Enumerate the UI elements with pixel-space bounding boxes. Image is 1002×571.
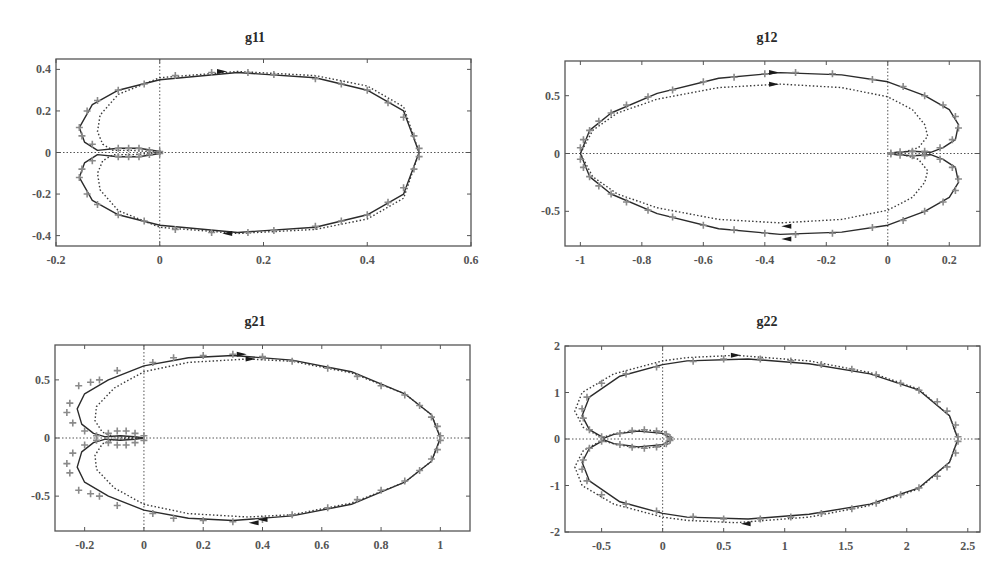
plus-marker — [132, 430, 139, 437]
plus-marker — [616, 441, 623, 448]
plus-marker — [586, 445, 593, 452]
plus-marker — [364, 211, 371, 218]
direction-arrow-icon — [781, 224, 791, 229]
x-tick-label: 0.6 — [314, 538, 329, 552]
plus-marker — [580, 164, 587, 171]
plus-marker — [897, 380, 904, 387]
y-tick-label: 0 — [554, 432, 560, 446]
plus-marker — [123, 441, 130, 448]
plus-marker — [690, 358, 697, 365]
x-tick-label: 1 — [437, 538, 443, 552]
plus-marker — [75, 382, 82, 389]
marker-series — [63, 351, 444, 525]
plus-marker — [629, 444, 636, 451]
plus-marker — [200, 517, 207, 524]
plus-marker — [132, 439, 139, 446]
plus-marker — [244, 69, 251, 76]
plus-marker — [955, 175, 962, 182]
plus-marker — [955, 125, 962, 132]
x-tick-label: 1.5 — [838, 539, 853, 553]
plus-marker — [829, 230, 836, 237]
y-tick-label: 1 — [554, 386, 560, 400]
plus-marker — [669, 86, 676, 93]
plus-marker — [952, 187, 959, 194]
plus-marker — [75, 487, 82, 494]
plus-marker — [720, 515, 727, 522]
plus-marker — [700, 222, 707, 229]
plus-marker — [96, 376, 103, 383]
axes-g22: -0.500.511.522.5-2-1012 — [550, 339, 980, 553]
plus-marker — [76, 174, 83, 181]
plus-marker — [141, 218, 148, 225]
x-tick-label: 2 — [904, 539, 910, 553]
x-tick-label: -0.2 — [817, 253, 836, 267]
plus-marker — [700, 78, 707, 85]
plot-canvas: -0.200.20.40.6-0.4-0.200.20.4-1-0.8-0.6-… — [0, 0, 1002, 571]
x-tick-label: 0.2 — [942, 253, 957, 267]
plus-marker — [87, 379, 94, 386]
plus-marker — [114, 502, 121, 509]
x-tick-label: 0 — [660, 539, 666, 553]
y-tick-label: 0.5 — [545, 89, 560, 103]
y-tick-label: -2 — [550, 525, 560, 539]
plus-marker — [586, 426, 593, 433]
dotted-curve — [98, 72, 420, 234]
x-tick-label: 2.5 — [960, 539, 975, 553]
plus-marker — [354, 496, 361, 503]
plus-marker — [645, 93, 652, 100]
plus-marker — [354, 373, 361, 380]
plus-marker — [66, 400, 73, 407]
plus-marker — [136, 145, 143, 152]
plus-marker — [629, 427, 636, 434]
x-tick-label: 0.8 — [374, 538, 389, 552]
plus-marker — [909, 152, 916, 159]
plus-marker — [400, 184, 407, 191]
plus-marker — [792, 69, 799, 76]
plus-marker — [944, 408, 951, 415]
y-tick-label: 0.5 — [35, 373, 50, 387]
x-tick-label: 0 — [157, 253, 163, 267]
x-tick-label: -0.6 — [694, 253, 713, 267]
plus-marker — [324, 365, 331, 372]
plus-marker — [949, 164, 956, 171]
plus-marker — [87, 490, 94, 497]
y-tick-label: 0.4 — [36, 62, 51, 76]
plus-marker — [818, 361, 825, 368]
x-tick-label: 0 — [885, 253, 891, 267]
x-tick-label: 1 — [782, 539, 788, 553]
plus-marker — [89, 141, 96, 148]
plus-marker — [829, 70, 836, 77]
plus-marker — [96, 493, 103, 500]
plus-marker — [114, 367, 121, 374]
plus-marker — [259, 353, 266, 360]
plus-marker — [616, 430, 623, 437]
plus-marker — [270, 227, 277, 234]
plus-marker — [324, 504, 331, 511]
plus-marker — [63, 460, 70, 467]
y-tick-label: -0.2 — [32, 187, 51, 201]
plus-marker — [583, 394, 590, 401]
plus-marker — [580, 456, 587, 463]
plus-marker — [921, 92, 928, 99]
y-tick-label: 2 — [554, 339, 560, 353]
plus-marker — [669, 214, 676, 221]
plus-marker — [595, 182, 602, 189]
plus-marker — [123, 428, 130, 435]
plus-marker — [78, 132, 85, 139]
x-tick-label: 0 — [141, 538, 147, 552]
x-tick-label: 0.2 — [256, 253, 271, 267]
plus-marker — [731, 226, 738, 233]
plus-marker — [115, 153, 122, 160]
x-tick-label: -0.8 — [632, 253, 651, 267]
plus-marker — [78, 166, 85, 173]
plus-marker — [244, 229, 251, 236]
y-tick-label: 0 — [45, 146, 51, 160]
plus-marker — [869, 224, 876, 231]
y-tick-label: -1 — [550, 479, 560, 493]
y-tick-label: -0.5 — [541, 204, 560, 218]
x-tick-label: -0.5 — [592, 539, 611, 553]
plus-marker — [63, 409, 70, 416]
plus-marker — [66, 469, 73, 476]
plus-marker — [114, 441, 121, 448]
plus-marker — [76, 124, 83, 131]
